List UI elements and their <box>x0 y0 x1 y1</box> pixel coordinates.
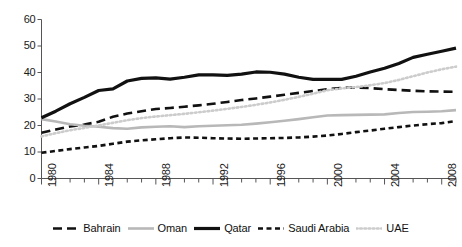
x-axis-tick-label: 2004 <box>389 163 401 187</box>
legend-item-saudi-arabia[interactable]: Saudi Arabia <box>258 222 349 234</box>
y-axis-tick-label: 0 <box>14 172 36 184</box>
legend-label: Bahrain <box>83 222 120 234</box>
x-axis-tick-label: 2000 <box>332 163 344 187</box>
legend-item-uae[interactable]: UAE <box>356 222 408 234</box>
y-axis-tick-label: 60 <box>14 13 36 25</box>
x-axis-tick-label: 1996 <box>275 163 287 187</box>
x-axis-tick-label: 2008 <box>446 163 458 187</box>
legend-label: Qatar <box>224 222 251 234</box>
x-axis-tick-label: 1980 <box>46 163 58 187</box>
legend-item-oman[interactable]: Oman <box>128 222 188 234</box>
y-axis-tick-label: 30 <box>14 92 36 104</box>
series-line-bahrain <box>42 88 457 133</box>
dotted-gray-swatch <box>356 223 382 234</box>
plot-area <box>0 0 462 247</box>
legend-label: UAE <box>386 222 408 234</box>
chart-legend: BahrainOmanQatarSaudi ArabiaUAE <box>0 222 462 234</box>
x-axis-tick-label: 1984 <box>103 163 115 187</box>
solid-black-swatch <box>194 223 220 234</box>
series-line-qatar <box>42 48 457 118</box>
x-axis-tick-label: 1988 <box>160 163 172 187</box>
dotted-dash-black-swatch <box>258 223 284 234</box>
x-axis-tick-label: 1992 <box>218 163 230 187</box>
y-axis-tick-label: 10 <box>14 145 36 157</box>
y-axis-tick-label: 50 <box>14 39 36 51</box>
legend-label: Oman <box>158 222 188 234</box>
line-chart: 0102030405060 19801984198819921996200020… <box>0 0 462 247</box>
dashed-black-swatch <box>53 223 79 234</box>
solid-gray-swatch <box>128 223 154 234</box>
legend-label: Saudi Arabia <box>288 222 349 234</box>
y-axis-tick-label: 20 <box>14 119 36 131</box>
y-axis-tick-label: 40 <box>14 66 36 78</box>
series-line-uae <box>42 67 457 137</box>
legend-item-qatar[interactable]: Qatar <box>194 222 251 234</box>
legend-item-bahrain[interactable]: Bahrain <box>53 222 120 234</box>
